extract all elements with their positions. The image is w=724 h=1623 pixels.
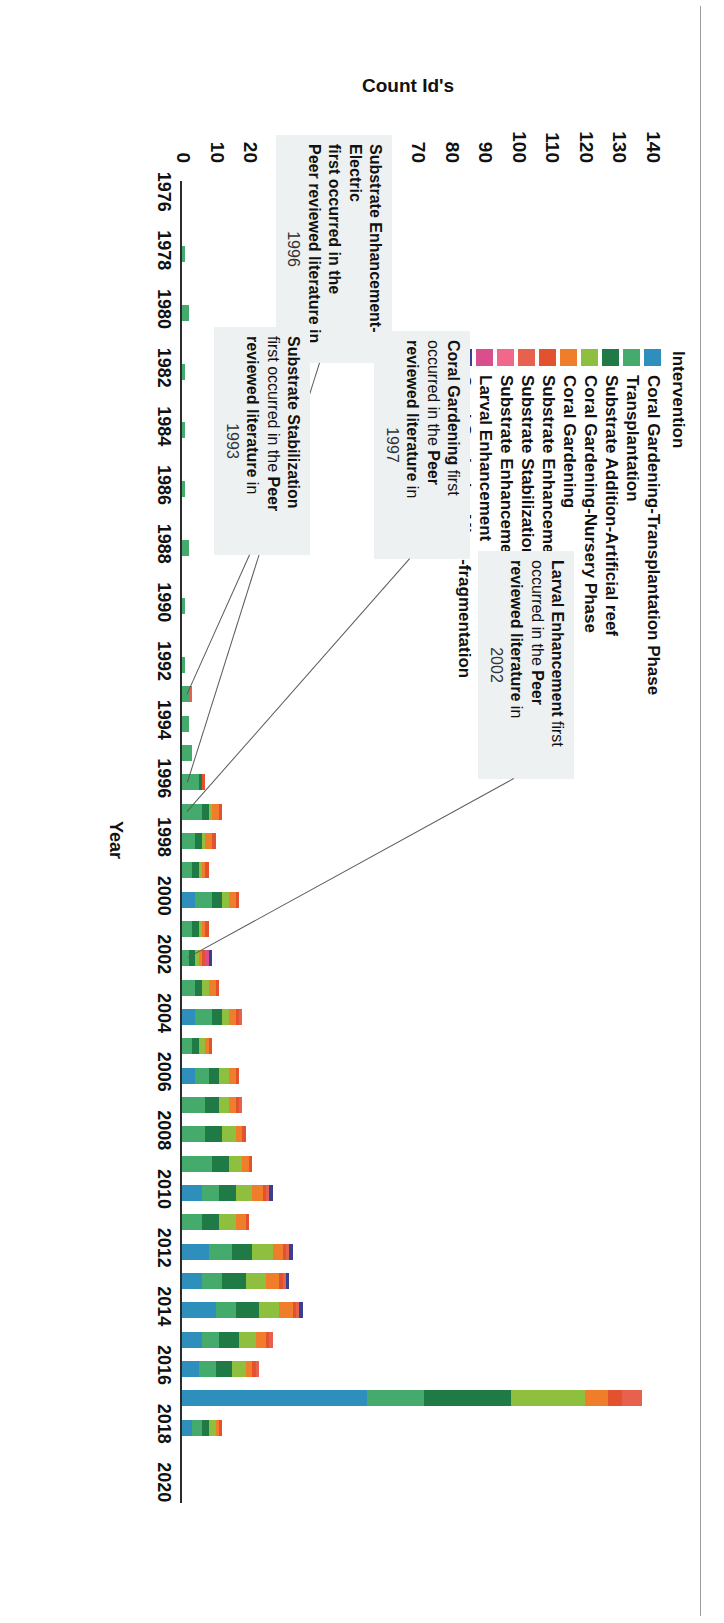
bar[interactable] <box>182 980 219 996</box>
bar-segment <box>199 950 202 966</box>
value-axis-label: Count Id's <box>362 75 454 97</box>
bar-segment <box>182 1156 212 1172</box>
bar[interactable] <box>182 1156 252 1172</box>
bar[interactable] <box>182 1126 246 1142</box>
legend-item[interactable]: Transplantation <box>622 349 642 819</box>
category-axis-tick: 2004 <box>153 993 174 1033</box>
category-axis-tick: 1980 <box>153 289 174 329</box>
bar-segment <box>209 950 212 966</box>
bar[interactable] <box>182 1420 222 1436</box>
bar-segment <box>256 1361 259 1377</box>
bar-segment <box>283 1273 286 1289</box>
bar-segment <box>202 804 209 820</box>
bar-segment <box>219 1420 222 1436</box>
bar[interactable] <box>182 305 189 321</box>
bar-segment <box>585 1390 609 1406</box>
bar[interactable] <box>182 540 189 556</box>
bar-segment <box>182 657 185 673</box>
bar-segment <box>182 481 185 497</box>
category-axis-tick: 2010 <box>153 1169 174 1209</box>
bar[interactable] <box>182 862 209 878</box>
category-axis-line <box>180 181 182 1503</box>
value-axis-tick: 120 <box>575 31 597 163</box>
category-axis-tick: 1998 <box>153 817 174 857</box>
legend-item-label: Coral Gardening-Nursery Phase <box>580 375 600 633</box>
bar[interactable] <box>182 1185 273 1201</box>
bar-segment <box>202 1214 219 1230</box>
legend-item[interactable]: Coral Gardening-Transplantation Phase <box>643 349 663 819</box>
bar-segment <box>182 1390 367 1406</box>
bar[interactable] <box>182 481 185 497</box>
bar-segment <box>199 774 202 790</box>
bar-segment <box>202 1420 209 1436</box>
bar[interactable] <box>182 774 205 790</box>
bar-segment <box>182 422 185 438</box>
bar-segment <box>229 1156 242 1172</box>
annotation-line: occurred in the Peer <box>526 560 546 770</box>
bar-segment <box>236 892 239 908</box>
bar[interactable] <box>182 1361 259 1377</box>
bar-segment <box>209 1420 216 1436</box>
bar[interactable] <box>182 1273 289 1289</box>
bar[interactable] <box>182 804 222 820</box>
bar-segment <box>202 950 205 966</box>
bar-segment <box>283 1244 286 1260</box>
value-axis-tick: 0 <box>172 31 194 163</box>
bar-segment <box>216 980 219 996</box>
annotation-callout: Substrate Stabilizationfirst occurred in… <box>214 327 310 555</box>
bar[interactable] <box>182 1390 642 1406</box>
category-axis-label: Year <box>105 821 126 859</box>
bar[interactable] <box>182 1097 242 1113</box>
bar[interactable] <box>182 892 239 908</box>
legend-item[interactable]: Coral Gardening-Nursery Phase <box>580 349 600 819</box>
bar[interactable] <box>182 246 185 262</box>
chart-figure: 0102030405060708090100110120130140 Count… <box>32 31 692 1591</box>
bar-segment <box>212 1156 229 1172</box>
annotation-line: Peer reviewed literature in <box>303 144 323 354</box>
legend-item-label: Coral Gardening-Transplantation Phase <box>643 375 663 695</box>
annotation-line: reviewed literature in <box>402 340 422 550</box>
bar-segment <box>229 1097 236 1113</box>
bar[interactable] <box>182 1244 293 1260</box>
bar[interactable] <box>182 1214 249 1230</box>
bar-segment <box>246 1214 249 1230</box>
bar[interactable] <box>182 422 185 438</box>
bar-segment <box>182 1273 202 1289</box>
bar-segment <box>236 1126 243 1142</box>
bar-segment <box>252 1361 255 1377</box>
bar-segment <box>246 1273 266 1289</box>
bar-segment <box>229 1068 236 1084</box>
bar[interactable] <box>182 716 189 732</box>
bar[interactable] <box>182 1038 212 1054</box>
legend-swatch-icon <box>477 349 494 366</box>
bar-segment <box>266 1332 269 1348</box>
bar-segment <box>252 1185 262 1201</box>
bar-segment <box>232 1361 245 1377</box>
bar-segment <box>202 1332 219 1348</box>
bar-segment <box>192 1420 202 1436</box>
bar[interactable] <box>182 833 216 849</box>
annotation-year: 1997 <box>381 340 401 550</box>
bar[interactable] <box>182 745 192 761</box>
bar[interactable] <box>182 598 185 614</box>
legend-item-label: Substrate Stabilization <box>517 375 537 558</box>
bar-segment <box>222 1273 246 1289</box>
bar-segment <box>209 1244 233 1260</box>
bar[interactable] <box>182 1068 239 1084</box>
bar-segment <box>299 1302 302 1318</box>
bar[interactable] <box>182 1009 242 1025</box>
bar-segment <box>195 980 202 996</box>
legend-item[interactable]: Substrate Addition-Artificial reef <box>601 349 621 819</box>
bar[interactable] <box>182 921 209 937</box>
bar-segment <box>195 833 202 849</box>
bar-segment <box>219 1214 236 1230</box>
bar[interactable] <box>182 657 185 673</box>
bar-segment <box>212 1009 222 1025</box>
bar[interactable] <box>182 1332 273 1348</box>
category-axis-tick: 1978 <box>153 230 174 270</box>
bar[interactable] <box>182 364 185 380</box>
bar-segment <box>209 1068 219 1084</box>
bar-segment <box>182 950 189 966</box>
bar-segment <box>367 1390 424 1406</box>
bar[interactable] <box>182 1302 303 1318</box>
